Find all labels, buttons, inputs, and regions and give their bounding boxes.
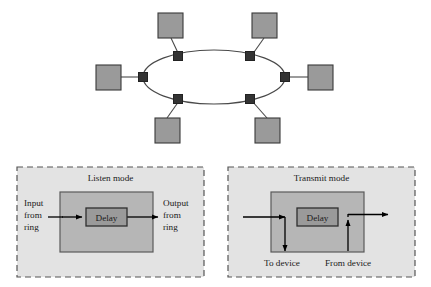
transmit-delay-label: Delay <box>307 213 329 223</box>
ring-node-right <box>281 73 290 82</box>
to-device-label: To device <box>264 258 300 268</box>
ring-node-left <box>139 73 148 82</box>
ring-node-top-left <box>174 52 183 61</box>
station-right <box>308 65 333 90</box>
listen-delay-label: Delay <box>96 213 118 223</box>
ring-node-bottom-left <box>174 95 183 104</box>
ring-node-top-right <box>246 52 255 61</box>
station-left <box>96 65 121 90</box>
from-device-label: From device <box>325 258 371 268</box>
figure-root: Listen mode Delay Input from ring Output… <box>0 0 431 287</box>
output-from-ring-line-3: ring <box>163 222 178 232</box>
station-top-right <box>252 13 277 38</box>
listen-mode-panel: Listen mode Delay Input from ring Output… <box>17 167 204 277</box>
input-from-ring-line-3: ring <box>24 222 39 232</box>
output-from-ring-line-2: from <box>163 210 181 220</box>
transmit-mode-panel: Transmit mode Delay To device From devic… <box>228 167 415 277</box>
input-from-ring-line-2: from <box>24 210 42 220</box>
ring-ellipse <box>143 50 285 104</box>
output-from-ring-line-1: Output <box>163 198 189 208</box>
ring-network-topology <box>96 13 333 143</box>
station-top-left <box>158 13 183 38</box>
transmit-mode-title: Transmit mode <box>294 173 350 183</box>
station-bottom-left <box>155 118 180 143</box>
diagram-canvas: Listen mode Delay Input from ring Output… <box>0 0 431 287</box>
station-bottom-right <box>255 118 280 143</box>
ring-node-bottom-right <box>246 95 255 104</box>
listen-mode-title: Listen mode <box>88 173 134 183</box>
input-from-ring-line-1: Input <box>24 198 44 208</box>
